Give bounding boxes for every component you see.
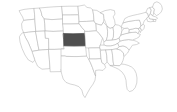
state-WA[interactable] <box>19 8 34 20</box>
state-OR[interactable] <box>22 19 36 33</box>
state-MT[interactable] <box>40 6 63 19</box>
state-ND[interactable] <box>62 6 79 15</box>
state-KS-highlighted[interactable] <box>63 33 85 46</box>
state-FL[interactable] <box>110 64 137 92</box>
state-SD[interactable] <box>63 15 79 24</box>
state-ME[interactable] <box>153 2 163 16</box>
us-states-map-svg <box>0 0 177 112</box>
state-AR[interactable] <box>89 48 101 59</box>
state-WY[interactable] <box>44 19 63 31</box>
us-locator-map <box>0 0 177 112</box>
state-OK[interactable] <box>61 46 87 56</box>
state-IN[interactable] <box>106 26 113 40</box>
state-MN[interactable] <box>78 5 94 22</box>
